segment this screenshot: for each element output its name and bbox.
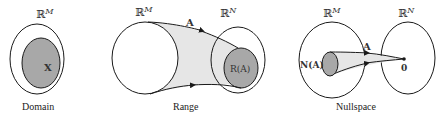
domain-panel: ℝM X Domain [10, 7, 64, 112]
nullspace-panel: ℝM ℝN A N(A) 0 Nullspace [299, 6, 435, 112]
nullspace-subset-na-ellipse [322, 52, 338, 76]
range-source-rm-ellipse [112, 22, 178, 94]
range-panel: ℝM ℝN A R(A) Range [112, 5, 265, 112]
range-map-label: A [185, 17, 194, 28]
domain-subset-label: X [44, 62, 52, 73]
nullspace-zero-label: 0 [401, 63, 407, 73]
domain-subset-x-ellipse [22, 38, 60, 88]
range-source-label: ℝM [135, 5, 153, 19]
range-subset-label: R(A) [230, 64, 250, 74]
domain-caption: Domain [22, 101, 54, 112]
range-caption: Range [173, 101, 199, 112]
nullspace-target-label: ℝN [398, 6, 415, 20]
nullspace-caption: Nullspace [336, 101, 377, 112]
linear-map-diagram: ℝM X Domain ℝM ℝN A R(A) Range [0, 0, 441, 116]
nullspace-map-label: A [362, 41, 371, 52]
domain-space-label: ℝM [36, 7, 54, 21]
nullspace-zero-point [402, 57, 406, 61]
nullspace-source-label: ℝM [323, 6, 341, 20]
range-target-label: ℝN [220, 6, 237, 20]
nullspace-subset-label: N(A) [300, 60, 324, 70]
